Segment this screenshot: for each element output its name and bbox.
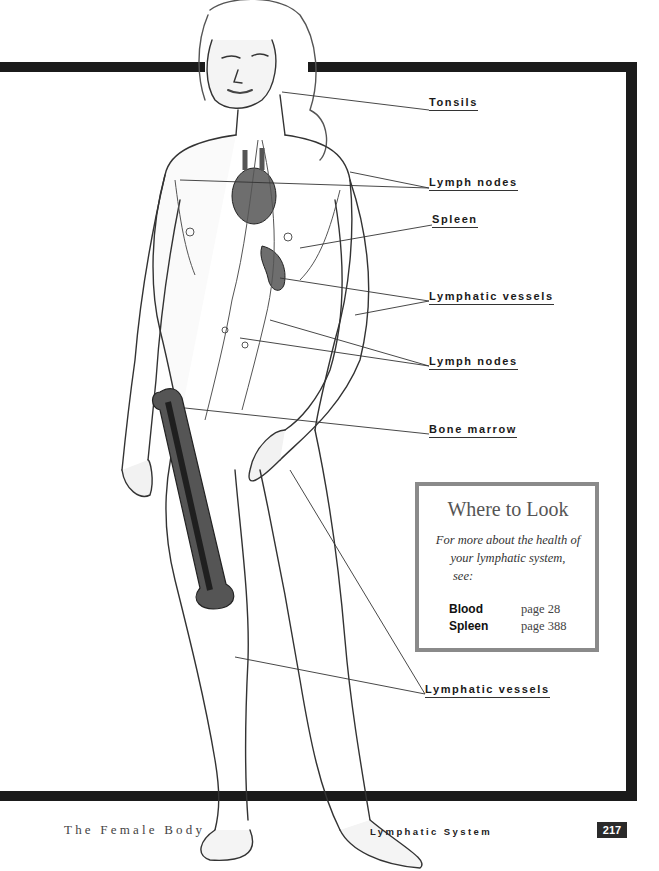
where-to-look-title: Where to Look (431, 498, 585, 521)
label-bone-marrow: Bone marrow (429, 423, 517, 438)
label-lymph-nodes-upper: Lymph nodes (429, 176, 518, 191)
reference-row[interactable]: Spleen page 388 (449, 618, 585, 635)
reference-topic: Spleen (449, 618, 521, 635)
footer-chapter-title: Lymphatic System (370, 826, 492, 837)
page-number-badge: 217 (597, 822, 627, 838)
intro-line-3: see: (431, 567, 585, 585)
reference-topic: Blood (449, 601, 521, 618)
label-lymphatic-vessels-upper: Lymphatic vessels (429, 290, 554, 305)
label-lymph-nodes-lower: Lymph nodes (429, 355, 518, 370)
label-lymphatic-vessels-lower: Lymphatic vessels (425, 683, 550, 698)
intro-line-2: your lymphatic system, (431, 549, 585, 567)
intro-line-1: For more about the health of (431, 531, 585, 549)
lymphatic-system-illustration (0, 0, 659, 871)
reference-list: Blood page 28 Spleen page 388 (431, 601, 585, 635)
reference-page: page 388 (521, 618, 566, 635)
where-to-look-box: Where to Look For more about the health … (415, 482, 599, 652)
reference-row[interactable]: Blood page 28 (449, 601, 585, 618)
where-to-look-intro: For more about the health of your lympha… (431, 531, 585, 585)
reference-page: page 28 (521, 601, 560, 618)
label-spleen: Spleen (432, 213, 478, 228)
footer-book-title: The Female Body (64, 822, 205, 838)
label-tonsils: Tonsils (429, 96, 478, 111)
